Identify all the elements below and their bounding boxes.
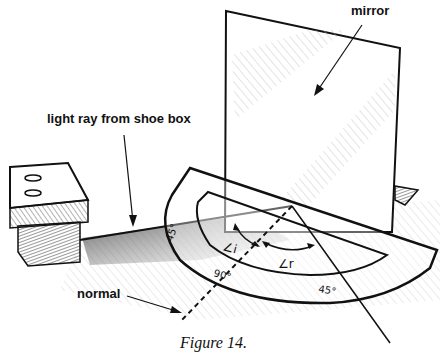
mirror-label: mirror xyxy=(351,3,389,18)
reflection-diagram: 45° 90° 45° ∠i ∠r xyxy=(0,0,447,358)
shoe-box xyxy=(10,163,88,266)
figure-canvas: 45° 90° 45° ∠i ∠r mirror xyxy=(0,0,447,358)
arrow-head-ray xyxy=(129,215,137,227)
normal-label: normal xyxy=(77,286,120,301)
figure-caption: Figure 14. xyxy=(180,334,247,352)
light-ray-label: light ray from shoe box xyxy=(47,111,191,126)
angle-r-label: ∠r xyxy=(278,257,294,271)
